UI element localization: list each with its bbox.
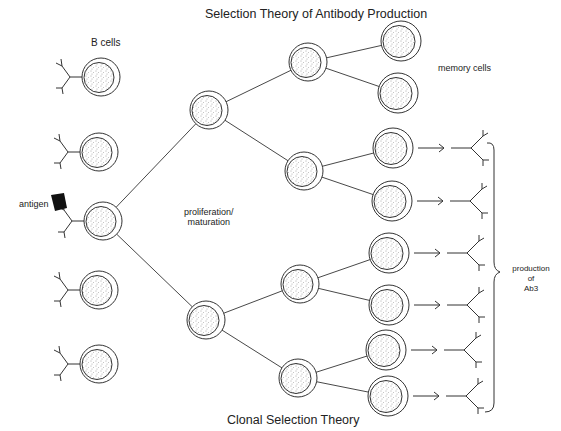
plasma-cell: [369, 233, 409, 273]
bottom-title: Clonal Selection Theory: [227, 413, 359, 427]
b-cell: [82, 58, 120, 96]
b-cell: [80, 133, 118, 171]
production-line2: of: [506, 274, 556, 284]
lineage-edge: [103, 221, 206, 320]
daughter-cell: [289, 43, 327, 81]
memory-cells-label: memory cells: [438, 63, 491, 73]
memory-cell: [381, 21, 421, 61]
plasma-cell: [368, 376, 408, 416]
b-cell: [80, 271, 118, 309]
daughter-cell: [281, 265, 319, 303]
b-cell: [84, 202, 122, 240]
proliferation-label: proliferation/ maturation: [184, 207, 234, 227]
receptor-tip: [54, 346, 61, 381]
plasma-cell: [373, 128, 413, 168]
b-cell-receptors: [54, 59, 84, 381]
antibody-icon: [446, 378, 484, 414]
plasma-cell: [366, 330, 406, 370]
antigen-shape: [51, 193, 67, 211]
daughter-cell: [187, 301, 225, 339]
secretion-arrow-icon: [414, 249, 440, 257]
antibody-icon: [451, 130, 489, 166]
antibody-icon: [444, 332, 482, 368]
receptor-branched: [62, 66, 82, 88]
proliferation-line2: maturation: [184, 217, 234, 227]
lineage-edge: [103, 110, 209, 221]
b-cells-label: B cells: [91, 37, 120, 48]
receptor-curly: [60, 141, 80, 163]
secretion-arrow-icon: [414, 301, 440, 309]
receptor-tip: [54, 272, 61, 307]
proliferation-line1: proliferation/: [184, 207, 234, 217]
antibody-outputs: [411, 130, 489, 414]
production-line3: Ab3: [506, 284, 556, 294]
production-brace: [485, 143, 500, 412]
lineage-edges: [103, 41, 401, 396]
cells: [80, 21, 421, 416]
secretion-arrow-icon: [413, 392, 439, 400]
diagram-title: Selection Theory of Antibody Production: [205, 7, 427, 21]
memory-cell: [378, 73, 418, 113]
secretion-arrow-icon: [411, 346, 437, 354]
receptor-tip: [56, 59, 63, 94]
daughter-cell: [285, 152, 323, 190]
secretion-arrow-icon: [418, 144, 444, 152]
antibody-icon: [447, 287, 485, 323]
daughter-cell: [190, 91, 228, 129]
production-label: production of Ab3: [506, 264, 556, 294]
antibody-icon: [447, 235, 485, 271]
antibody-icon: [450, 183, 488, 219]
receptor-hooked: [60, 279, 80, 301]
receptor-curly: [60, 353, 80, 375]
antigen-label: antigen: [19, 199, 49, 209]
receptor-simple: [64, 210, 84, 232]
plasma-cell: [369, 285, 409, 325]
daughter-cell: [279, 359, 317, 397]
receptor-tip: [54, 134, 61, 169]
b-cell: [80, 345, 118, 383]
secretion-arrow-icon: [417, 197, 443, 205]
production-line1: production: [506, 264, 556, 274]
plasma-cell: [372, 181, 412, 221]
